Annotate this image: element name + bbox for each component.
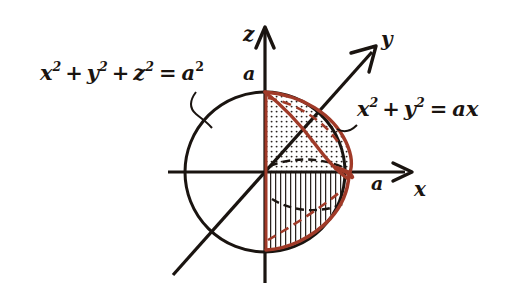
math-diagram: x2+y2+z2=a2 x2+y2=ax z y x a a (0, 0, 523, 288)
y-axis-label: y (380, 27, 394, 51)
z-axis-tick-label: a (243, 62, 255, 84)
x-axis-tick-label: a (371, 172, 383, 194)
z-axis-label: z (242, 22, 255, 46)
x-axis-label: x (413, 177, 427, 201)
figure-background (0, 0, 523, 288)
